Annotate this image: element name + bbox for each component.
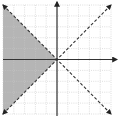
inequality-graph: [0, 0, 120, 122]
